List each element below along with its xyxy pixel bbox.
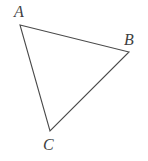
- triangle-abc-outline: [20, 25, 129, 131]
- triangle-drawing: [0, 0, 148, 161]
- vertex-label-c: C: [43, 137, 54, 153]
- vertex-label-b: B: [124, 32, 134, 48]
- vertex-label-a: A: [14, 4, 24, 20]
- geometry-figure-canvas: A B C: [0, 0, 148, 161]
